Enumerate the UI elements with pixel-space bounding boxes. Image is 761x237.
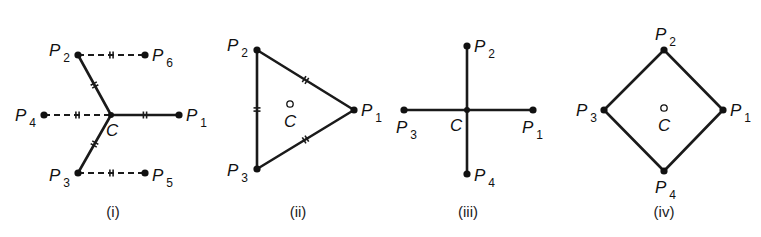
point-p2-dot [463,42,470,49]
point-label: P1 [522,118,543,142]
point-label: P4 [15,106,36,130]
panel-ii-triangle: P1P2P3C(ii) [227,36,382,220]
point-p3-dot [253,165,260,172]
center-label: C [450,116,463,135]
point-subscript: 2 [669,35,676,49]
point-subscript: 4 [29,116,36,130]
solid-edge [664,50,723,110]
point-label: P1 [361,101,382,125]
point-subscript: 2 [488,47,495,61]
panel-caption: (ii) [290,203,307,220]
point-label: P1 [186,106,207,130]
point-p1-dot [350,106,357,113]
point-subscript: 2 [63,51,70,65]
center-ring-icon [661,105,667,111]
point-p4-dot [660,167,667,174]
point-subscript: 4 [669,188,676,202]
point-p3-dot [400,106,407,113]
point-subscript: 1 [375,111,382,125]
solid-edge [664,110,723,171]
point-p6-dot [141,51,148,58]
point-label: P3 [396,118,417,142]
point-subscript: 2 [241,46,248,60]
point-label: P4 [655,178,676,202]
panel-iv-square: P1P2P3P4C(iv) [576,25,751,220]
point-subscript: 1 [744,111,751,125]
point-p4-dot [40,111,47,118]
point-label: P5 [152,166,173,190]
figure-canvas: P1P2P3P4P5P6C(i) P1P2P3C(ii) P1P2P3P4C(i… [0,0,761,237]
point-p2-dot [253,46,260,53]
panel-caption: (iv) [654,203,675,220]
center-junction-dot [108,112,114,118]
center-label: C [658,116,671,135]
point-subscript: 6 [166,56,173,70]
point-p1-dot [175,111,182,118]
point-p3-dot [600,106,607,113]
solid-edge [257,50,354,110]
point-subscript: 3 [241,171,248,185]
point-p2-dot [660,46,667,53]
solid-edge [604,110,664,171]
panel-caption: (i) [106,203,119,220]
point-label: P2 [474,37,495,61]
panel-caption: (iii) [458,203,478,220]
point-label: P3 [227,161,248,185]
panel-iii-cross: P1P2P3P4C(iii) [396,37,543,220]
point-subscript: 1 [536,128,543,142]
point-label: P3 [576,101,597,125]
point-p4-dot [463,170,470,177]
point-label: P1 [730,101,751,125]
center-junction-dot [464,107,470,113]
center-label: C [284,112,297,131]
point-subscript: 1 [200,116,207,130]
solid-edge [78,55,111,115]
solid-edge [604,50,664,110]
center-ring-icon [287,101,293,107]
point-label: P2 [227,36,248,60]
point-subscript: 3 [590,111,597,125]
point-label: P2 [49,41,70,65]
point-subscript: 3 [63,176,70,190]
solid-edge [257,110,354,169]
point-label: P3 [49,166,70,190]
panel-i-star-with-reflections: P1P2P3P4P5P6C(i) [15,41,207,220]
point-p5-dot [141,169,148,176]
point-label: P6 [152,46,173,70]
point-p1-dot [719,106,726,113]
point-subscript: 4 [488,176,495,190]
point-p1-dot [529,106,536,113]
point-subscript: 5 [166,176,173,190]
point-label: P4 [474,166,495,190]
center-label: C [106,121,119,140]
point-subscript: 3 [410,128,417,142]
point-label: P2 [655,25,676,49]
point-p3-dot [74,169,81,176]
point-p2-dot [74,51,81,58]
